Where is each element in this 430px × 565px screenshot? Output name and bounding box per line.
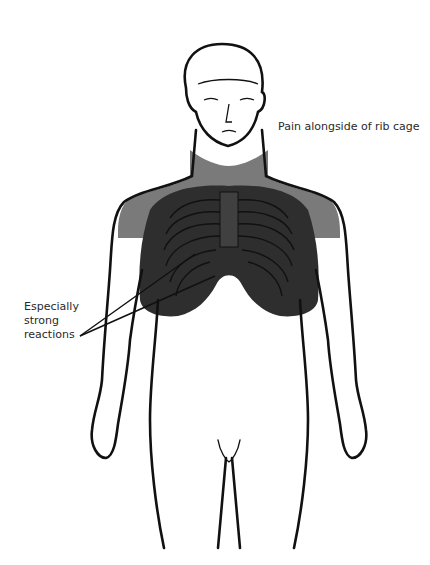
strong-reactions-label: Especially strong reactions [24, 300, 94, 342]
body-outline-illustration [0, 0, 430, 565]
rib-cage-pain-label: Pain alongside of rib cage [278, 120, 420, 134]
label-line: Especially [24, 300, 94, 314]
label-line: strong [24, 314, 94, 328]
sternum [220, 192, 238, 247]
face-details [198, 80, 258, 133]
body-pain-diagram: Pain alongside of rib cage Especially st… [0, 0, 430, 565]
label-line: reactions [24, 328, 94, 342]
